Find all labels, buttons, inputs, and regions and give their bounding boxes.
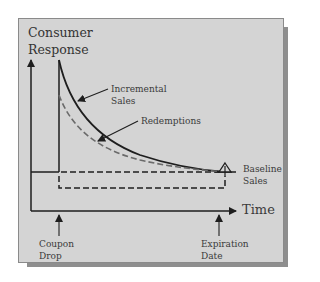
redemptions-label: Redemptions — [141, 115, 201, 127]
lower-dashed-box — [59, 176, 225, 188]
expiration-label-line-1: Expiration — [201, 238, 249, 250]
incremental-sales-label: Incremental Sales — [111, 83, 167, 107]
coupon-drop-label: Coupon Drop — [39, 238, 74, 262]
coupon-label-line-2: Drop — [39, 250, 74, 262]
expiration-date-label: Expiration Date — [201, 238, 249, 262]
incremental-sales-pointer — [78, 89, 108, 101]
incremental-label-line-2: Sales — [111, 95, 167, 107]
baseline-label-line-1: Baseline — [243, 163, 282, 175]
redemptions-label-text: Redemptions — [141, 115, 201, 127]
incremental-label-line-1: Incremental — [111, 83, 167, 95]
baseline-label-line-2: Sales — [243, 175, 282, 187]
redemptions-pointer — [98, 121, 138, 141]
title-line-2: Response — [28, 41, 93, 58]
title-line-1: Consumer — [28, 24, 93, 41]
y-axis-title: Consumer Response — [28, 24, 93, 58]
x-axis-title: Time — [242, 203, 275, 218]
expiration-label-line-2: Date — [201, 250, 249, 262]
coupon-label-line-1: Coupon — [39, 238, 74, 250]
baseline-sales-label: Baseline Sales — [243, 163, 282, 187]
x-axis-label-text: Time — [242, 202, 275, 217]
